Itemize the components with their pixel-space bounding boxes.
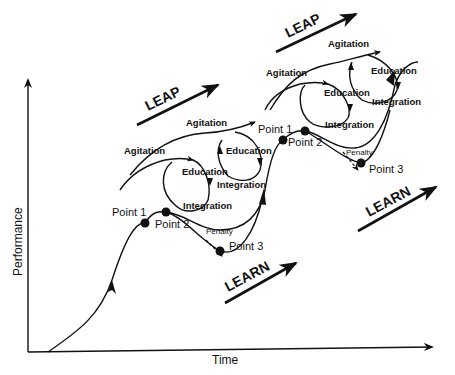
c2-point2-label: Point 2	[288, 136, 322, 148]
c1-point1-dot	[141, 219, 150, 228]
c2-point1-dot	[279, 136, 288, 145]
c1-agitation-outer: Agitation	[186, 117, 227, 128]
c2-agitation-inner: Agitation	[266, 67, 307, 78]
c2-point3-label: Point 3	[369, 163, 403, 175]
c1-integration-right: Integration	[217, 179, 266, 190]
performance-curve-start	[48, 223, 145, 352]
x-axis	[28, 347, 432, 352]
x-axis-label: Time	[212, 353, 239, 367]
c2-point1-label: Point 1	[258, 123, 292, 135]
leap-learn-diagram: Performance Time Agitation Agitation Edu…	[0, 0, 455, 375]
c1-education-left: Education	[182, 166, 228, 177]
c2-penalty-label: Penalty	[346, 148, 373, 157]
c1-point2-label: Point 2	[155, 218, 189, 230]
c1-education-right: Education	[226, 145, 272, 156]
c1-point3-dot	[216, 247, 225, 256]
c1-integration-left: Integration	[183, 200, 232, 211]
cycle-2: Agitation Agitation Education Education …	[258, 10, 436, 231]
c1-point1-label: Point 1	[112, 206, 146, 218]
c1-point2-dot	[162, 208, 171, 217]
c1-leap-label: LEAP	[142, 83, 183, 114]
c2-education-right: Education	[371, 65, 417, 76]
c1-point3-label: Point 3	[229, 240, 263, 252]
c1-penalty-label: Penalty	[206, 227, 233, 236]
c2-integration-left: Integration	[325, 119, 374, 130]
c1-agitation-inner: Agitation	[124, 145, 165, 156]
c2-integration-right: Integration	[372, 96, 421, 107]
y-axis-label: Performance	[11, 207, 25, 276]
cycle-1: Agitation Agitation Education Education …	[112, 83, 296, 303]
c2-education-left: Education	[324, 87, 370, 98]
c1-learn-label: LEARN	[222, 258, 272, 295]
c2-agitation-outer: Agitation	[328, 38, 369, 49]
c2-point3-dot	[357, 159, 366, 168]
c2-leap-label: LEAP	[282, 10, 323, 41]
c2-point2-dot	[301, 127, 310, 136]
